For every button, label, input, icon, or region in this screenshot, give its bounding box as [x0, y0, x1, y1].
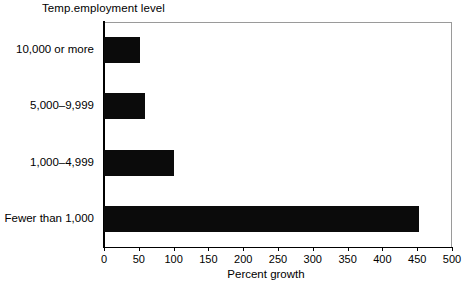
x-tick-label: 450 — [408, 253, 426, 266]
x-tick-label: 300 — [304, 253, 322, 266]
x-tick-label: 50 — [133, 253, 145, 266]
x-tick-mark — [417, 247, 418, 251]
x-tick-label: 0 — [101, 253, 107, 266]
x-tick-mark — [278, 247, 279, 251]
x-tick-mark — [348, 247, 349, 251]
category-label: 1,000–4,999 — [0, 156, 99, 169]
x-tick-mark — [174, 247, 175, 251]
x-tick-label: 100 — [164, 253, 182, 266]
x-tick-label: 500 — [443, 253, 461, 266]
x-tick-label: 400 — [373, 253, 391, 266]
x-tick-mark — [208, 247, 209, 251]
x-tick-mark — [452, 247, 453, 251]
bar — [104, 37, 140, 63]
x-tick-mark — [243, 247, 244, 251]
chart-title: Temp.employment level — [42, 1, 165, 15]
category-label: Fewer than 1,000 — [0, 212, 99, 225]
bars-layer — [104, 22, 452, 247]
x-tick-label: 150 — [199, 253, 217, 266]
category-label: 10,000 or more — [0, 43, 99, 56]
x-tick-label: 350 — [338, 253, 356, 266]
x-axis-title: Percent growth — [0, 267, 476, 281]
bar — [104, 93, 145, 119]
x-tick-label: 200 — [234, 253, 252, 266]
bar — [104, 150, 174, 176]
bar-chart: Temp.employment level 10,000 or more5,00… — [0, 0, 476, 284]
x-tick-mark — [382, 247, 383, 251]
x-tick-mark — [313, 247, 314, 251]
x-tick-mark — [104, 247, 105, 251]
category-axis-labels: 10,000 or more5,000–9,9991,000–4,999Fewe… — [0, 22, 99, 247]
category-label: 5,000–9,999 — [0, 99, 99, 112]
x-tick-label: 250 — [269, 253, 287, 266]
bar — [104, 206, 419, 232]
x-tick-mark — [139, 247, 140, 251]
